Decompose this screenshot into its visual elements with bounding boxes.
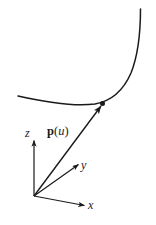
z-axis-label: z xyxy=(25,127,30,139)
vector-p-symbol: p xyxy=(47,124,54,138)
x-axis-label: x xyxy=(88,199,93,211)
position-vector-label: p(u) xyxy=(47,125,69,138)
vector-paren-close: ) xyxy=(64,124,68,138)
parametric-curve xyxy=(18,9,141,105)
parametric-curve-figure: z y x p(u) xyxy=(0,0,156,225)
figure-canvas xyxy=(0,0,156,225)
curve-point-marker xyxy=(100,101,105,106)
y-axis-label: y xyxy=(81,159,86,171)
position-vector-p xyxy=(34,106,101,196)
y-axis xyxy=(34,165,79,197)
x-axis xyxy=(34,196,85,206)
